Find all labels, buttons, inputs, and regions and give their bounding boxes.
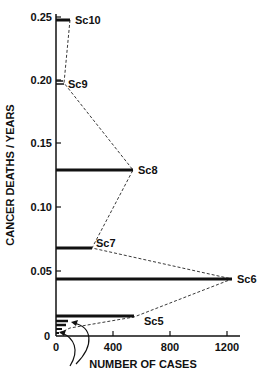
label-sc9: Sc9	[68, 78, 88, 90]
arrow-annotations	[62, 323, 89, 366]
chart: 0.25 0.20 0.15 0.10 0.05 0 0 400 800 120…	[0, 0, 263, 377]
label-sc10: Sc10	[75, 14, 101, 26]
y-tick-label: 0.15	[31, 137, 52, 149]
y-tick-label: 0	[44, 330, 50, 342]
x-tick-label: 400	[104, 341, 122, 353]
y-axis-title: CANCER DEATHS / YEARS	[4, 104, 16, 245]
label-sc8: Sc8	[138, 164, 158, 176]
y-tick-label: 0.20	[31, 74, 52, 86]
x-tick-label: 0	[53, 341, 59, 353]
y-tick-label: 0.25	[31, 11, 52, 23]
y-tick-label: 0.05	[31, 265, 52, 277]
x-axis-title: NUMBER OF CASES	[89, 358, 197, 370]
label-sc5: Sc5	[144, 315, 164, 327]
connector-line	[60, 20, 232, 333]
x-tick-label: 1200	[215, 341, 239, 353]
label-sc6: Sc6	[237, 273, 257, 285]
label-sc7: Sc7	[96, 237, 116, 249]
y-tick-label: 0.10	[31, 201, 52, 213]
x-tick-label: 800	[161, 341, 179, 353]
bars	[56, 20, 232, 333]
